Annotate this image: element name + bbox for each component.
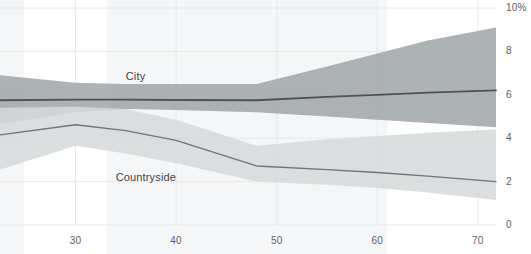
series-label-countryside: Countryside [116, 171, 176, 183]
y-tick-label-10: 10% [506, 2, 527, 13]
x-tick-label-60: 60 [357, 235, 397, 246]
x-tick-label-40: 40 [156, 235, 196, 246]
y-tick-label-4: 4 [506, 132, 512, 143]
x-tick-label-50: 50 [257, 235, 297, 246]
y-tick-label-2: 2 [506, 176, 512, 187]
x-tick-label-30: 30 [55, 235, 95, 246]
y-tick-label-8: 8 [506, 45, 512, 56]
chart-container: 0246810% 3040506070 CityCountryside [0, 0, 531, 254]
series-label-city: City [126, 70, 146, 82]
y-tick-label-6: 6 [506, 89, 512, 100]
y-tick-label-0: 0 [506, 219, 512, 230]
x-tick-label-70: 70 [458, 235, 498, 246]
chart-plot-area [0, 0, 531, 254]
